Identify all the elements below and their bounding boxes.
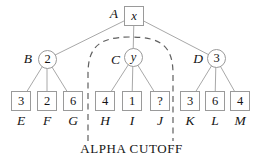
node-M-box: 4 bbox=[230, 91, 250, 111]
node-label-K: K bbox=[180, 114, 200, 128]
node-G-value: 6 bbox=[70, 95, 76, 108]
node-label-H: H bbox=[95, 114, 115, 128]
node-C-value: y bbox=[131, 51, 137, 64]
node-K-value: 3 bbox=[187, 95, 193, 108]
node-K-box: 3 bbox=[180, 91, 200, 111]
node-label-C: C bbox=[100, 53, 120, 67]
node-E-value: 3 bbox=[18, 95, 24, 108]
node-D-circle: 3 bbox=[207, 49, 226, 68]
node-J-value: ? bbox=[157, 95, 163, 108]
node-E-box: 3 bbox=[11, 91, 31, 111]
node-label-G: G bbox=[63, 114, 83, 128]
node-G-box: 6 bbox=[63, 91, 83, 111]
node-L-value: 6 bbox=[212, 95, 218, 108]
node-label-J: J bbox=[150, 114, 170, 128]
node-C-circle: y bbox=[124, 48, 143, 67]
node-F-box: 2 bbox=[37, 91, 57, 111]
node-B-value: 2 bbox=[44, 53, 50, 66]
node-label-E: E bbox=[11, 114, 31, 128]
node-I-box: 1 bbox=[122, 91, 142, 111]
node-label-A: A bbox=[98, 7, 118, 21]
node-label-D: D bbox=[183, 52, 203, 66]
node-F-value: 2 bbox=[44, 95, 50, 108]
node-J-box: ? bbox=[150, 91, 170, 111]
node-L-box: 6 bbox=[205, 91, 225, 111]
node-H-box: 4 bbox=[95, 91, 115, 111]
node-label-L: L bbox=[205, 114, 225, 128]
node-label-B: B bbox=[12, 52, 32, 66]
node-A-box: x bbox=[124, 6, 144, 26]
node-I-value: 1 bbox=[129, 95, 135, 108]
node-M-value: 4 bbox=[237, 95, 243, 108]
node-D-value: 3 bbox=[213, 52, 219, 65]
alpha-cutoff-game-tree-figure: A x B 2 C y D 3 3 2 6 4 1 ? 3 6 4 E F G … bbox=[0, 0, 263, 167]
alpha-cutoff-caption: ALPHA CUTOFF bbox=[0, 142, 263, 156]
node-label-I: I bbox=[122, 114, 142, 128]
node-B-circle: 2 bbox=[38, 50, 57, 69]
node-label-M: M bbox=[230, 114, 250, 128]
node-A-value: x bbox=[131, 10, 137, 23]
node-H-value: 4 bbox=[102, 95, 108, 108]
node-label-F: F bbox=[37, 114, 57, 128]
